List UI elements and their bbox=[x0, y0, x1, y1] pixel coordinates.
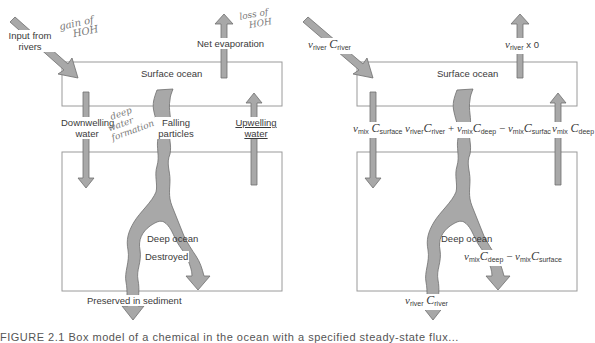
eq-operator: − bbox=[506, 250, 512, 262]
eq-sub: surface bbox=[380, 128, 403, 135]
upwelling-flux-equation: vmix Cdeep bbox=[551, 122, 595, 138]
evaporation-flux-equation: vriver x 0 bbox=[504, 38, 540, 54]
eq-sub: deep bbox=[579, 128, 595, 135]
eq-sub: river bbox=[410, 128, 424, 135]
eq-sub: mix bbox=[557, 128, 568, 135]
upwelling-water-label: Upwelling water bbox=[232, 117, 280, 139]
right-panel bbox=[303, 14, 577, 320]
eq-sub: river bbox=[337, 44, 351, 51]
input-from-rivers-label: Input from rivers bbox=[4, 30, 56, 52]
eq-sub: deep bbox=[481, 128, 497, 135]
eq-sub: mix bbox=[462, 128, 473, 135]
eq-operator: − bbox=[499, 122, 505, 134]
upwelling-arrow-icon bbox=[550, 93, 566, 185]
falling-particles-label: Falling particles bbox=[155, 117, 197, 139]
deep-ocean-label: Deep ocean bbox=[146, 233, 199, 244]
eq-sub: mix bbox=[469, 256, 480, 263]
figure-caption: FIGURE 2.1 Box model of a chemical in th… bbox=[0, 331, 459, 343]
destroyed-flux-equation: vmixCdeep − vmixCsurface bbox=[463, 250, 563, 266]
upwelling-arrow-icon bbox=[246, 93, 262, 185]
eq-sub: mix bbox=[520, 256, 531, 263]
deep-ocean-label: Deep ocean bbox=[440, 233, 493, 244]
surface-ocean-label: Surface ocean bbox=[140, 68, 203, 79]
eq-sub: river bbox=[432, 128, 446, 135]
eq-sub: mix bbox=[513, 128, 524, 135]
eq-sub: river bbox=[313, 44, 327, 51]
eq-sub: river bbox=[434, 300, 448, 307]
preserved-in-sediment-label: Preserved in sediment bbox=[86, 295, 183, 306]
surface-ocean-label: Surface ocean bbox=[436, 68, 499, 79]
input-flux-equation: vriver Criver bbox=[307, 38, 352, 54]
destroyed-label: Destroyed bbox=[144, 251, 189, 262]
preserved-flux-equation: vriver Criver bbox=[404, 294, 449, 310]
eq-sub: deep bbox=[488, 256, 504, 263]
eq-operator: + bbox=[448, 122, 454, 134]
eq-sub: surface bbox=[539, 256, 562, 263]
falling-particles-flux-equation: vriverCriver + vmixCdeep − vmixCsurface bbox=[404, 122, 556, 138]
eq-times-zero: x 0 bbox=[526, 39, 539, 50]
downwelling-flux-equation: vmix Csurface bbox=[352, 122, 404, 138]
left-panel bbox=[10, 14, 282, 320]
eq-sub: mix bbox=[358, 128, 369, 135]
eq-sub: river bbox=[510, 44, 524, 51]
eq-sub: river bbox=[410, 300, 424, 307]
net-evaporation-label: Net evaporation bbox=[196, 38, 265, 49]
